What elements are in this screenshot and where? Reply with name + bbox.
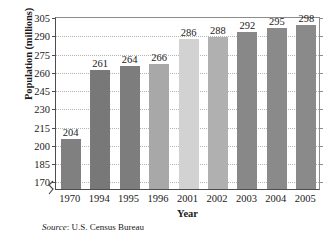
plot-area: 1701852002152302452602752903052042612642… [55, 17, 320, 190]
y-tick-mark-right [319, 36, 323, 37]
y-tick-mark-right [319, 18, 323, 19]
bar-value-label: 264 [122, 54, 138, 65]
x-tick-label: 2001 [177, 193, 198, 204]
bar-value-label: 288 [210, 25, 226, 36]
bar: 261 [90, 70, 110, 189]
bar: 204 [61, 139, 81, 189]
y-tick-mark [52, 73, 56, 74]
source-text: : U.S. Census Bureau [67, 222, 144, 232]
bar: 264 [120, 66, 140, 189]
y-tick-label: 200 [34, 140, 50, 151]
y-tick-label: 275 [34, 49, 50, 60]
y-tick-mark [52, 18, 56, 19]
y-tick-mark [52, 164, 56, 165]
bar-chart-figure: Population (millions) 170185200215230245… [0, 0, 331, 241]
bar: 295 [267, 28, 287, 189]
x-tick-label: 2003 [236, 193, 257, 204]
y-tick-mark-right [319, 55, 323, 56]
y-tick-mark-right [319, 91, 323, 92]
y-tick-mark-right [319, 73, 323, 74]
y-tick-mark [52, 128, 56, 129]
bar-value-label: 286 [181, 27, 197, 38]
bar-value-label: 292 [240, 20, 256, 31]
y-tick-mark-right [319, 109, 323, 110]
y-tick-mark [52, 55, 56, 56]
source-note: Source: U.S. Census Bureau [42, 222, 144, 232]
bar-value-label: 261 [92, 58, 108, 69]
bar-value-label: 298 [298, 13, 314, 24]
x-tick-label: 1994 [89, 193, 110, 204]
bar: 286 [179, 39, 199, 189]
y-tick-mark-right [319, 128, 323, 129]
x-tick-label: 1995 [118, 193, 139, 204]
x-tick-label: 2004 [265, 193, 286, 204]
source-label: Source [42, 222, 67, 232]
y-tick-mark-right [319, 164, 323, 165]
bar: 266 [149, 64, 169, 189]
y-tick-label: 260 [34, 67, 50, 78]
y-tick-mark [52, 109, 56, 110]
x-tick-label: 1970 [59, 193, 80, 204]
y-tick-mark [52, 91, 56, 92]
y-tick-mark-right [319, 146, 323, 147]
y-tick-label: 290 [34, 31, 50, 42]
x-axis-title: Year [55, 208, 320, 219]
x-tick-label: 1996 [148, 193, 169, 204]
y-tick-mark [52, 36, 56, 37]
bar: 288 [208, 37, 228, 189]
bar-value-label: 266 [151, 52, 167, 63]
y-tick-label: 305 [34, 13, 50, 24]
bar: 298 [296, 25, 316, 189]
y-tick-mark [52, 146, 56, 147]
y-tick-label: 185 [34, 159, 50, 170]
bar-value-label: 295 [269, 16, 285, 27]
x-tick-label: 2002 [206, 193, 227, 204]
y-tick-label: 215 [34, 122, 50, 133]
x-tick-label: 2005 [295, 193, 316, 204]
bar-value-label: 204 [63, 127, 79, 138]
bar: 292 [237, 32, 257, 189]
y-tick-mark-right [319, 182, 323, 183]
y-tick-label: 245 [34, 86, 50, 97]
y-tick-label: 230 [34, 104, 50, 115]
